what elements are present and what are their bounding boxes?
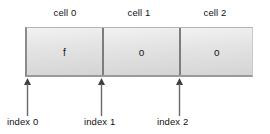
cell-2: o bbox=[179, 28, 252, 75]
cell-0: f bbox=[27, 28, 102, 75]
up-arrow-icon-0 bbox=[23, 78, 32, 116]
cell-0-value: f bbox=[63, 48, 66, 58]
cell-strip: f o o bbox=[25, 27, 253, 77]
cell-1: o bbox=[102, 28, 180, 75]
index-label-2: index 2 bbox=[157, 116, 188, 127]
cell-label-0: cell 0 bbox=[39, 7, 91, 18]
cell-index-diagram: cell 0 cell 1 cell 2 f o o index 0 i bbox=[0, 0, 270, 134]
index-label-1: index 1 bbox=[84, 116, 115, 127]
up-arrow-icon-1 bbox=[97, 78, 106, 116]
cell-1-value: o bbox=[139, 48, 145, 58]
up-arrow-icon-2 bbox=[175, 78, 184, 116]
cell-label-2: cell 2 bbox=[189, 7, 241, 18]
cell-label-1: cell 1 bbox=[113, 7, 165, 18]
index-label-0: index 0 bbox=[7, 116, 38, 127]
cell-2-value: o bbox=[214, 48, 220, 58]
